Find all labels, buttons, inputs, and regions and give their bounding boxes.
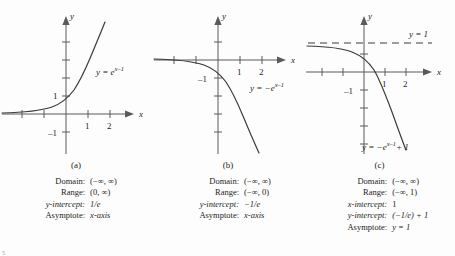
curve-label-b-lhs: y = −e (249, 83, 275, 93)
fact-row: x-intercept: 1 (304, 199, 455, 210)
y-axis-a (62, 16, 69, 154)
y-tick-label-1-a: 1 (53, 91, 58, 101)
curve-label-b-exponent: x–1 (274, 81, 284, 88)
fact-label-range-a: Range: (0, 187, 90, 198)
x-tick-label-2-c: 2 (403, 79, 408, 89)
y-axis-c (360, 16, 367, 154)
fact-value-range-a: (0, ∞) (90, 187, 152, 198)
y-axis-b (214, 16, 221, 154)
fact-label-domain-a: Domain: (0, 176, 90, 187)
fact-label-asymptote-b: Asymptote: (152, 210, 244, 221)
fact-label-y-intercept-a: y-intercept: (0, 199, 90, 210)
fact-row: y-intercept: 1/e (0, 199, 152, 210)
fact-row: Asymptote: x-axis (0, 210, 152, 221)
fact-value-y-intercept-b: −1/e (244, 199, 304, 210)
fact-row: y-intercept: −1/e (152, 199, 304, 210)
fact-value-asymptote-a: x-axis (90, 210, 152, 221)
panel-b-caption: (b) (152, 160, 304, 170)
y-tick-label-neg1-a: –1 (47, 128, 57, 138)
fact-label-range-c: Range: (304, 187, 392, 198)
fact-row: Domain: (−∞, ∞) (152, 176, 304, 187)
fact-value-y-intercept-a: 1/e (90, 199, 152, 210)
curve-label-b: y = −ex–1 (249, 81, 284, 93)
x-tick-label-2-b: 2 (259, 67, 264, 77)
x-axis-label-c: x (436, 67, 441, 77)
fact-label-x-intercept-c: x-intercept: (304, 199, 392, 210)
fact-value-range-b: (−∞, 0) (244, 187, 304, 198)
fact-value-y-intercept-c: (−1/e) + 1 (392, 210, 455, 221)
graph-b-svg: x y 1 2 –1 y = −ex–1 (152, 2, 304, 154)
y-axis-label-c: y (367, 11, 372, 21)
curve-label-a: y = ex–1 (95, 65, 124, 77)
graph-c: x y 1 2 –1 y = 1 y = −ex–1+ 1 (304, 2, 455, 154)
x-tick-label-2-a: 2 (107, 121, 112, 131)
x-tick-label-1-c: 1 (382, 79, 387, 89)
panel-a-caption: (a) (0, 160, 152, 170)
x-tick-label-1-b: 1 (237, 67, 242, 77)
svg-text:y = −ex–1+ 1: y = −ex–1+ 1 (361, 140, 409, 152)
fact-row: Domain: (−∞, ∞) (304, 176, 455, 187)
fact-row: Range: (−∞, 1) (304, 187, 455, 198)
curve-label-a-lhs: y = e (95, 67, 115, 77)
graph-a: x y 1 2 1 –1 y = ex–1 (0, 2, 152, 154)
fact-row: Range: (−∞, 0) (152, 187, 304, 198)
fact-label-y-intercept-b: y-intercept: (152, 199, 244, 210)
fact-label-asymptote-c: Asymptote: (304, 222, 392, 233)
panel-a: x y 1 2 1 –1 y = ex–1 (a) Domain: (−∞, ∞… (0, 0, 152, 256)
fact-label-domain-c: Domain: (304, 176, 392, 187)
y-axis-label-a: y (69, 11, 74, 21)
graph-a-svg: x y 1 2 1 –1 y = ex–1 (0, 2, 152, 154)
y-tick-label-neg1-c: –1 (343, 86, 353, 96)
y-tick-label-neg1-b: –1 (197, 74, 207, 84)
fact-value-x-intercept-c: 1 (392, 199, 455, 210)
fact-value-domain-a: (−∞, ∞) (90, 176, 152, 187)
panel-b: x y 1 2 –1 y = −ex–1 (b) Domain: (−∞, ∞)… (152, 0, 304, 256)
fact-value-asymptote-b: x-axis (244, 210, 304, 221)
curve-label-a-exponent: x–1 (114, 65, 124, 72)
fact-row: Range: (0, ∞) (0, 187, 152, 198)
fact-label-y-intercept-c: y-intercept: (304, 210, 392, 221)
curve-label-c-tail: + 1 (396, 142, 409, 152)
fact-value-range-c: (−∞, 1) (392, 187, 455, 198)
fact-row: Domain: (−∞, ∞) (0, 176, 152, 187)
page-corner-mark: 5 (2, 250, 5, 256)
fact-row: Asymptote: y = 1 (304, 222, 455, 233)
curve-label-c-exponent: x–1 (386, 140, 396, 147)
panel-c-caption: (c) (304, 160, 455, 170)
graph-c-svg: x y 1 2 –1 y = 1 y = −ex–1+ 1 (304, 2, 455, 154)
x-tick-label-1-a: 1 (85, 121, 90, 131)
x-axis-c (306, 68, 432, 75)
svg-text:y = −ex–1: y = −ex–1 (249, 81, 284, 93)
fact-label-asymptote-a: Asymptote: (0, 210, 90, 221)
svg-text:y = ex–1: y = ex–1 (95, 65, 124, 77)
fact-value-asymptote-c: y = 1 (392, 222, 455, 233)
fact-value-domain-c: (−∞, ∞) (392, 176, 455, 187)
panel-a-facts: Domain: (−∞, ∞) Range: (0, ∞) y-intercep… (0, 176, 152, 222)
x-axis-label-a: x (138, 109, 143, 119)
panel-c: x y 1 2 –1 y = 1 y = −ex–1+ 1 (c) Domain… (304, 0, 455, 256)
curve-label-c: y = −ex–1+ 1 (361, 140, 409, 152)
curve-label-c-lhs: y = −e (361, 142, 387, 152)
fact-label-domain-b: Domain: (152, 176, 244, 187)
panel-c-facts: Domain: (−∞, ∞) Range: (−∞, 1) x-interce… (304, 176, 455, 233)
fact-value-domain-b: (−∞, ∞) (244, 176, 304, 187)
graph-b: x y 1 2 –1 y = −ex–1 (152, 2, 304, 154)
asymptote-label-c: y = 1 (408, 29, 428, 39)
curve-c (307, 46, 406, 150)
fact-row: y-intercept: (−1/e) + 1 (304, 210, 455, 221)
fact-label-range-b: Range: (152, 187, 244, 198)
y-axis-label-b: y (221, 11, 226, 21)
x-axis-label-b: x (290, 55, 295, 65)
figure-page: x y 1 2 1 –1 y = ex–1 (a) Domain: (−∞, ∞… (0, 0, 455, 256)
fact-row: Asymptote: x-axis (152, 210, 304, 221)
panel-b-facts: Domain: (−∞, ∞) Range: (−∞, 0) y-interce… (152, 176, 304, 222)
